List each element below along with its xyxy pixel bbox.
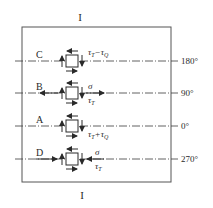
normal-stress-label-b: σ xyxy=(88,81,93,91)
section-label-bottom: I xyxy=(80,189,84,201)
normal-stress-label-d: σ xyxy=(95,147,100,157)
stress-element-diagram: I I C 180° τT−τQ B 90° σ τT xyxy=(0,0,213,208)
stress-label-c: τT−τQ xyxy=(88,47,109,58)
point-label-c: C xyxy=(36,49,43,60)
angle-label-b: 90° xyxy=(181,88,194,98)
row-b: B 90° σ τT xyxy=(15,81,194,106)
shear-stress-label-b: τT xyxy=(88,95,95,106)
row-a: A 0° τT+τQ xyxy=(15,114,190,140)
section-label-top: I xyxy=(78,11,82,23)
point-label-d: D xyxy=(36,147,43,158)
point-label-b: B xyxy=(36,81,43,92)
angle-label-d: 270° xyxy=(181,154,199,164)
angle-label-c: 180° xyxy=(181,56,199,66)
stress-label-a: τT+τQ xyxy=(88,129,109,140)
shear-stress-label-d: τT xyxy=(95,161,102,172)
angle-label-a: 0° xyxy=(181,121,190,131)
point-label-a: A xyxy=(36,114,44,125)
